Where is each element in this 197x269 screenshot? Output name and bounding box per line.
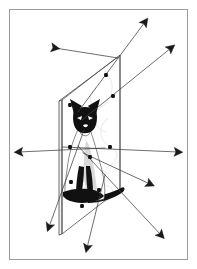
point-left-mid bbox=[68, 145, 72, 149]
point-right-mid bbox=[108, 145, 112, 149]
figure-container: Siamese cat with projection plane and ra… bbox=[0, 0, 197, 269]
figure-illustration bbox=[0, 0, 197, 269]
plane-left-edge-slab bbox=[59, 100, 62, 235]
point-chest bbox=[88, 155, 92, 159]
point-lower-right bbox=[97, 188, 101, 192]
point-plane-top-left bbox=[68, 103, 72, 107]
point-upper-right bbox=[111, 94, 115, 98]
point-bottom-center bbox=[80, 204, 84, 208]
point-upper-mid bbox=[104, 73, 108, 77]
point-lower-left-body bbox=[69, 180, 73, 184]
